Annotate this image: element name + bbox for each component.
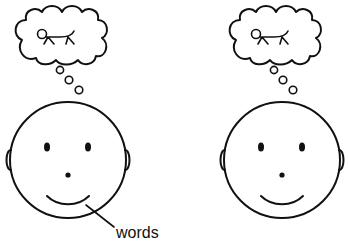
speaker-head-icon (7, 102, 130, 218)
listener-head-icon (221, 102, 344, 218)
speaker-figure (7, 6, 130, 227)
speech-circuit-diagram (0, 0, 348, 246)
thought-cloud-icon (16, 6, 107, 65)
thought-bubbles-icon (56, 66, 82, 93)
thought-bubbles-icon (270, 66, 296, 93)
words-label: words (116, 225, 159, 241)
listener-figure (221, 6, 344, 218)
thought-cloud-icon (230, 6, 321, 65)
